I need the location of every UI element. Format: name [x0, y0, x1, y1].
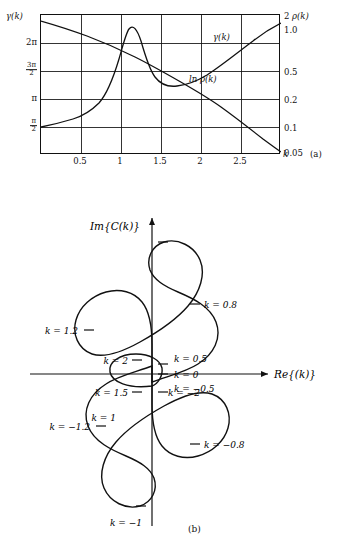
- annotation-ln-rho: ln ρ(k): [189, 75, 217, 84]
- ytick-right-4: 1.0: [284, 25, 298, 35]
- label-k-2: k = 2: [104, 356, 129, 366]
- xtick-2: 1.5: [153, 156, 167, 166]
- panel-b-chart: Im{C(k)} Re{(k)} k = 1 k = 0.8 k = 0.5 k…: [0, 196, 340, 539]
- panel-b-caption: (b): [188, 524, 201, 534]
- axis-real-arrow: [261, 371, 268, 377]
- annotation-gamma: γ(k): [213, 33, 230, 42]
- ytick-right-0: 0.05: [284, 148, 303, 158]
- ytick-right-3: 0.5: [284, 67, 298, 77]
- ytick-left-2: 3π2: [26, 62, 37, 78]
- xtick-3: 2: [197, 156, 202, 166]
- axis-label-re: Re{(k)}: [273, 368, 316, 381]
- ytick-left-3: 2π: [26, 37, 37, 47]
- label-k-minus-1-2: k = −1.2: [49, 422, 90, 432]
- ytick-right-1: 0.1: [284, 123, 298, 133]
- ytick-right-5: 2: [284, 11, 289, 21]
- panel-a-left-ticks: π2 π 3π2 2π: [0, 14, 37, 154]
- label-k-minus-0-8: k = −0.8: [204, 440, 245, 450]
- axis-label-im: Im{C(k)}: [89, 220, 140, 233]
- label-k-minus-0-5b: k = −0.5: [174, 384, 215, 394]
- ytick-left-1: π: [31, 93, 37, 103]
- xtick-0: 0.5: [73, 156, 87, 166]
- label-k-minus-1: k = −1: [110, 518, 142, 528]
- panel-a-bottom-ticks: 0.5 1 1.5 2 2.5: [40, 156, 280, 170]
- curve-gamma: [41, 23, 281, 127]
- axis-imag-arrow: [149, 218, 155, 225]
- label-k-1-2: k = 1.2: [45, 326, 78, 336]
- curve-ln-rho: [41, 21, 281, 152]
- label-k-0-8: k = 0.8: [204, 300, 237, 310]
- panel-a-plot-area: γ(k) ln ρ(k): [40, 14, 280, 154]
- ytick-left-0: π2: [30, 118, 37, 134]
- panel-b-plot-area: Im{C(k)} Re{(k)} k = 1 k = 0.8 k = 0.5 k…: [0, 196, 340, 539]
- xtick-4: 2.5: [233, 156, 247, 166]
- xtick-1: 1: [117, 156, 122, 166]
- panel-a-right-ticks: 2 1.0 0.5 0.2 0.1 0.05: [284, 14, 340, 154]
- label-k-0: k = 0: [174, 370, 199, 380]
- ytick-right-2: 0.2: [284, 95, 298, 105]
- panel-a-chart: γ(k) ρ(k) k (a) γ(k) ln ρ(k) π2 π 3π2: [0, 0, 340, 200]
- label-k-0-5: k = 0.5: [174, 354, 207, 364]
- label-k-1: k = 1: [92, 413, 116, 423]
- label-k-1-5: k = 1.5: [95, 388, 128, 398]
